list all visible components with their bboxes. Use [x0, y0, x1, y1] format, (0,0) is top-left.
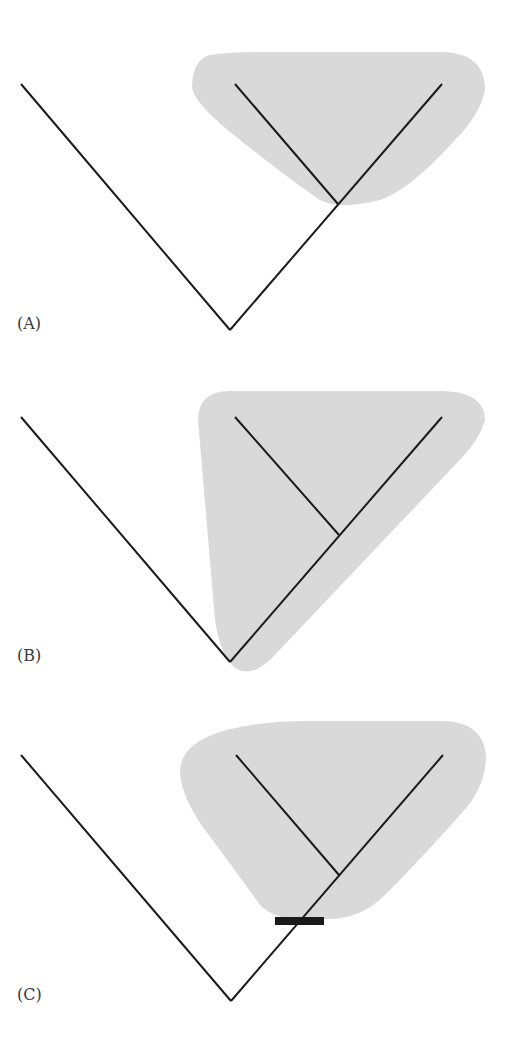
- phylogeny-diagram: [0, 0, 516, 1041]
- panel-label-a: (A): [17, 314, 41, 333]
- panel-b: [21, 391, 485, 672]
- clade-shading-b: [198, 391, 485, 672]
- panel-label-b: (B): [17, 646, 41, 665]
- panel-a: [21, 52, 485, 330]
- panel-c: [21, 721, 486, 1001]
- apomorphy-bar: [275, 917, 324, 925]
- clade-shading-a: [192, 52, 485, 205]
- clade-shading-c: [180, 721, 486, 920]
- panel-label-c: (C): [17, 985, 42, 1004]
